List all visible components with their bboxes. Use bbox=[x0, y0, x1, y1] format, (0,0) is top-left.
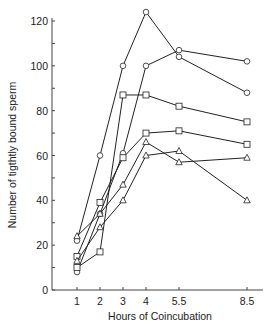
circle-marker bbox=[176, 47, 182, 53]
triangle-marker bbox=[120, 197, 126, 203]
line-chart: 02040608010012012345.58.5 Hours of Coinc… bbox=[0, 0, 273, 326]
circle-marker bbox=[244, 59, 250, 65]
square-marker bbox=[97, 249, 103, 255]
triangle-marker bbox=[120, 181, 126, 187]
square-marker bbox=[74, 265, 80, 271]
y-tick-label: 120 bbox=[30, 15, 48, 27]
x-tick-label: 4 bbox=[143, 295, 149, 307]
y-tick-label: 80 bbox=[36, 105, 48, 117]
circle-marker bbox=[97, 153, 103, 159]
x-tick-label: 5.5 bbox=[172, 295, 187, 307]
circle-marker bbox=[176, 54, 182, 60]
series-circle-1 bbox=[74, 9, 250, 243]
circle-marker bbox=[244, 90, 250, 96]
square-marker bbox=[120, 155, 126, 161]
square-marker bbox=[143, 92, 149, 98]
x-tick-label: 2 bbox=[97, 295, 103, 307]
square-marker bbox=[176, 128, 182, 134]
y-axis-label: Number of tigthtly bound sperm bbox=[6, 82, 18, 229]
y-tick-label: 40 bbox=[36, 194, 48, 206]
series-circle-2 bbox=[74, 47, 250, 275]
y-tick-label: 0 bbox=[42, 284, 48, 296]
square-marker bbox=[120, 92, 126, 98]
series-square-1 bbox=[74, 92, 250, 271]
circle-marker bbox=[143, 63, 149, 69]
square-marker bbox=[244, 141, 250, 147]
circle-marker bbox=[120, 63, 126, 69]
square-marker bbox=[143, 130, 149, 136]
series-group bbox=[74, 9, 250, 275]
triangle-marker bbox=[176, 148, 182, 154]
circle-marker bbox=[143, 9, 149, 15]
x-tick-label: 8.5 bbox=[240, 295, 255, 307]
x-axis-label: Hours of Coincubation bbox=[108, 310, 212, 322]
square-marker bbox=[244, 119, 250, 125]
x-tick-label: 3 bbox=[120, 295, 126, 307]
triangle-marker bbox=[244, 154, 250, 160]
triangle-marker bbox=[244, 197, 250, 203]
x-tick-label: 1 bbox=[74, 295, 80, 307]
y-tick-label: 60 bbox=[36, 150, 48, 162]
axes: 02040608010012012345.58.5 bbox=[30, 15, 263, 307]
triangle-marker bbox=[143, 139, 149, 145]
square-marker bbox=[176, 103, 182, 109]
series-line bbox=[77, 50, 247, 272]
y-tick-label: 20 bbox=[36, 239, 48, 251]
y-tick-label: 100 bbox=[30, 60, 48, 72]
square-marker bbox=[97, 200, 103, 206]
series-square-2 bbox=[74, 128, 250, 260]
